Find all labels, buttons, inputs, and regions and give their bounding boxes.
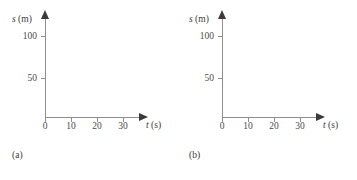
x-axis-unit-a: (s) xyxy=(149,120,161,130)
y-tick-100-a xyxy=(41,36,46,37)
y-axis-arrowhead-icon-a xyxy=(41,10,49,19)
x-tick-label-20-b: 20 xyxy=(264,121,284,132)
x-tick-label-30-b: 30 xyxy=(290,121,310,132)
x-tick-label-10-a: 10 xyxy=(61,121,81,132)
y-axis-label-a: s (m) xyxy=(12,14,32,25)
x-tick-label-30-a: 30 xyxy=(113,121,133,132)
two-panel-graph-figure: 100 50 0 10 20 30 s (m) t (s) (a) 100 5 xyxy=(0,0,357,180)
y-axis-arrowhead-icon-b xyxy=(218,10,226,19)
y-axis-line-a xyxy=(45,18,46,118)
x-axis-unit-b: (s) xyxy=(326,120,338,130)
y-axis-label-b: s (m) xyxy=(189,14,209,25)
y-tick-label-50-a: 50 xyxy=(9,73,37,84)
y-tick-label-100-a: 100 xyxy=(9,31,37,42)
y-tick-100-b xyxy=(218,36,223,37)
x-tick-label-0-a: 0 xyxy=(35,121,55,132)
panel-caption-a: (a) xyxy=(12,150,23,161)
panel-caption-b: (b) xyxy=(189,150,200,161)
x-tick-label-0-b: 0 xyxy=(212,121,232,132)
y-tick-label-100-b: 100 xyxy=(186,31,214,42)
x-tick-label-20-a: 20 xyxy=(87,121,107,132)
x-axis-line-a xyxy=(45,117,140,118)
y-axis-unit-a: (m) xyxy=(16,14,32,24)
graph-panel-a: 100 50 0 10 20 30 s (m) t (s) (a) xyxy=(0,0,178,180)
x-axis-line-b xyxy=(222,117,317,118)
y-axis-unit-b: (m) xyxy=(193,14,209,24)
x-tick-label-10-b: 10 xyxy=(238,121,258,132)
graph-panel-b: 100 50 0 10 20 30 s (m) t (s) (b) xyxy=(177,0,355,180)
y-axis-line-b xyxy=(222,18,223,118)
x-axis-label-a: t (s) xyxy=(146,120,161,131)
x-axis-label-b: t (s) xyxy=(323,120,338,131)
y-tick-50-b xyxy=(218,78,223,79)
y-tick-50-a xyxy=(41,78,46,79)
y-tick-label-50-b: 50 xyxy=(186,73,214,84)
